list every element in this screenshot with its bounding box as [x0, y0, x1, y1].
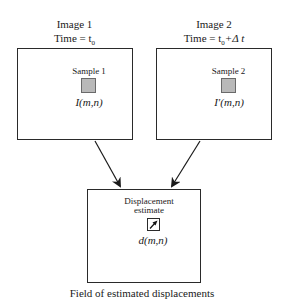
displacement-vector-box	[147, 218, 160, 231]
arrow-down-left-icon	[95, 141, 120, 186]
displacement-label-line2: estimate	[124, 206, 174, 215]
arrow-up-right-icon	[148, 219, 159, 230]
arrow-down-right-icon	[172, 141, 200, 186]
displacement-function-label: d(m,n)	[126, 234, 180, 246]
figure-caption: Field of estimated displacements	[30, 287, 254, 299]
